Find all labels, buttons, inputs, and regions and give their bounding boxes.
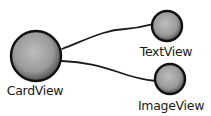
edge-cardview-imageview <box>62 61 156 81</box>
node-cardview-label: CardView <box>7 83 64 98</box>
node-textview-label: TextView <box>139 44 193 59</box>
node-cardview: CardView <box>7 31 64 98</box>
node-imageview: ImageView <box>138 64 204 113</box>
node-textview: TextView <box>139 11 193 59</box>
view-hierarchy-diagram: CardView TextView ImageView <box>0 0 211 116</box>
node-imageview-label: ImageView <box>138 98 204 113</box>
